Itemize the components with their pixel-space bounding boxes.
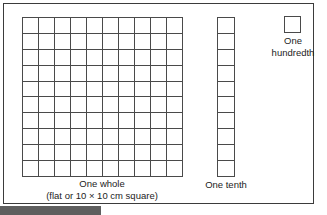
grid-cell [23, 18, 39, 34]
grid-cell [71, 129, 87, 145]
grid-cell [87, 97, 103, 113]
grid-cell [39, 161, 55, 177]
grid-cell [218, 161, 235, 177]
grid-cell [103, 34, 119, 50]
grid-cell [55, 18, 71, 34]
one-tenth-grid [217, 17, 235, 177]
grid-cell [23, 97, 39, 113]
grid-cell [135, 129, 151, 145]
grid-cell [23, 50, 39, 66]
grid-cell [119, 113, 135, 129]
grid-cell [151, 97, 167, 113]
grid-cell [167, 145, 183, 161]
grid-cell [87, 66, 103, 82]
grid-cell [218, 129, 235, 145]
grid-cell [151, 18, 167, 34]
grid-cell [55, 50, 71, 66]
grid-cell [135, 97, 151, 113]
grid-cell [103, 97, 119, 113]
grid-cell [87, 145, 103, 161]
grid-cell [39, 97, 55, 113]
one-hundredth-label-line2: hundredth [266, 47, 320, 59]
grid-cell [218, 113, 235, 129]
grid-cell [71, 82, 87, 98]
one-whole-label: One whole [22, 178, 182, 190]
grid-cell [151, 161, 167, 177]
grid-cell [87, 50, 103, 66]
grid-cell [151, 145, 167, 161]
grid-cell [71, 50, 87, 66]
grid-cell [135, 18, 151, 34]
grid-cell [151, 34, 167, 50]
grid-cell [151, 50, 167, 66]
grid-cell [218, 97, 235, 113]
grid-cell [167, 50, 183, 66]
grid-cell [55, 66, 71, 82]
grid-cell [55, 82, 71, 98]
grid-cell [167, 129, 183, 145]
grid-cell [119, 34, 135, 50]
grid-cell [151, 82, 167, 98]
grid-cell [135, 82, 151, 98]
one-whole-model [22, 17, 183, 177]
grid-cell [55, 129, 71, 145]
footer-gray-bar [0, 206, 101, 215]
grid-cell [39, 82, 55, 98]
figure-root: One whole (flat or 10 × 10 cm square) On… [0, 0, 327, 215]
grid-cell [151, 113, 167, 129]
grid-cell [151, 129, 167, 145]
one-whole-grid [22, 17, 183, 177]
grid-cell [71, 34, 87, 50]
grid-cell [39, 66, 55, 82]
grid-cell [218, 18, 235, 34]
grid-cell [218, 34, 235, 50]
grid-cell [23, 66, 39, 82]
one-tenth-caption: One tenth [190, 179, 262, 191]
grid-cell [87, 34, 103, 50]
grid-cell [23, 145, 39, 161]
grid-cell [119, 82, 135, 98]
one-tenth-model [217, 17, 235, 177]
grid-cell [55, 97, 71, 113]
grid-cell [103, 145, 119, 161]
grid-cell [151, 66, 167, 82]
grid-cell [39, 129, 55, 145]
grid-cell [103, 129, 119, 145]
grid-cell [119, 129, 135, 145]
grid-cell [103, 18, 119, 34]
one-whole-caption: One whole (flat or 10 × 10 cm square) [22, 178, 182, 202]
grid-cell [167, 34, 183, 50]
grid-cell [218, 82, 235, 98]
grid-cell [39, 113, 55, 129]
grid-cell [167, 18, 183, 34]
grid-cell [23, 113, 39, 129]
grid-cell [87, 18, 103, 34]
grid-cell [167, 66, 183, 82]
grid-cell [135, 161, 151, 177]
grid-cell [55, 161, 71, 177]
grid-cell [87, 82, 103, 98]
one-hundredth-square [284, 16, 301, 33]
grid-cell [71, 113, 87, 129]
grid-cell [71, 18, 87, 34]
grid-cell [167, 97, 183, 113]
grid-cell [135, 145, 151, 161]
grid-cell [55, 145, 71, 161]
grid-cell [39, 50, 55, 66]
grid-cell [71, 145, 87, 161]
grid-cell [167, 113, 183, 129]
grid-cell [135, 66, 151, 82]
grid-cell [23, 34, 39, 50]
grid-cell [218, 50, 235, 66]
grid-cell [23, 161, 39, 177]
one-hundredth-model [284, 16, 301, 33]
grid-cell [87, 129, 103, 145]
grid-cell [167, 161, 183, 177]
grid-cell [119, 66, 135, 82]
one-hundredth-label-line1: One [266, 35, 320, 47]
one-whole-sublabel: (flat or 10 × 10 cm square) [22, 190, 182, 202]
grid-cell [87, 161, 103, 177]
grid-cell [119, 97, 135, 113]
grid-cell [119, 145, 135, 161]
one-hundredth-caption: One hundredth [266, 35, 320, 59]
